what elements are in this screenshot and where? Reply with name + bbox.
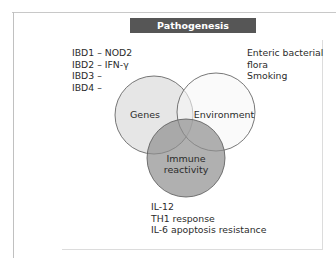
immune-label-line2: reactivity (164, 164, 209, 175)
immune-label-line1: Immune (166, 153, 205, 164)
environment-label: Environment (194, 109, 255, 120)
venn-diagram: GenesEnvironmentImmunereactivity (0, 0, 336, 258)
genes-label: Genes (130, 109, 160, 120)
